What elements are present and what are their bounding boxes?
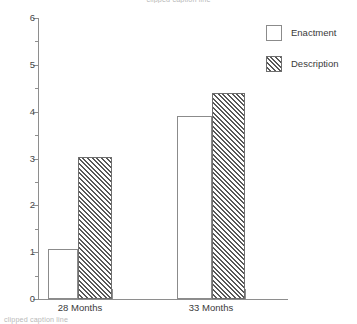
y-tick-minor (35, 276, 38, 277)
y-axis-label: 0 (30, 294, 35, 304)
y-tick-minor (35, 135, 38, 136)
x-axis-label: 33 Months (189, 303, 233, 313)
y-axis-line (38, 18, 39, 300)
y-tick-minor (35, 41, 38, 42)
x-axis-line (38, 299, 288, 300)
y-axis-label: 4 (30, 107, 35, 117)
hatched-swatch-icon (266, 56, 282, 72)
y-tick-minor (35, 182, 38, 183)
bar-enactment-33-months (177, 116, 212, 299)
legend-item-enactment[interactable]: Enactment (266, 24, 357, 41)
y-axis-label: 2 (30, 201, 35, 211)
x-axis-label: 28 Months (58, 303, 102, 313)
y-axis-label: 3 (30, 154, 35, 164)
y-axis-label: 6 (30, 13, 35, 23)
y-tick-minor (35, 88, 38, 89)
bar-description-33-months (212, 93, 245, 299)
y-tick-minor (35, 229, 38, 230)
clipped-caption-top: clipped caption line (0, 0, 357, 3)
x-axis-group-tick (245, 289, 246, 300)
bar-description-28-months (78, 157, 112, 299)
y-axis-label: 5 (30, 60, 35, 70)
bar-enactment-28-months (48, 249, 78, 299)
legend: Enactment Description (266, 24, 357, 86)
y-axis-label: 1 (30, 247, 35, 257)
x-axis-group-tick (112, 289, 113, 300)
empty-swatch-icon (266, 25, 282, 41)
legend-label-description: Description (291, 59, 339, 69)
legend-label-enactment: Enactment (291, 28, 336, 38)
clipped-caption-bottom: clipped caption line (0, 316, 357, 324)
plot-area: 0123456 28 Months33 Months (38, 18, 288, 300)
legend-item-description[interactable]: Description (266, 55, 357, 72)
